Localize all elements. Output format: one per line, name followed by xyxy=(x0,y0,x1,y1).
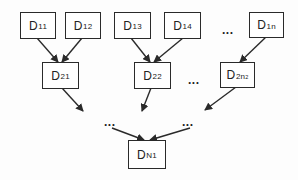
diagram-canvas: D11 D12 D13 D14 ... D1n D21 D22 ... D2n2… xyxy=(0,0,298,180)
node-d12: D12 xyxy=(65,12,101,39)
node-d2n2: D2n2 xyxy=(220,62,255,88)
ellipsis-level2: ... xyxy=(188,75,200,85)
edge-d21-level3 xyxy=(62,88,83,111)
node-d14: D14 xyxy=(164,12,201,39)
edge-d22-level3 xyxy=(142,88,151,111)
ellipsis-level1: ... xyxy=(222,25,234,35)
edge-dots-left-dn1 xyxy=(112,128,144,140)
ellipsis-level3-left: ... xyxy=(104,117,116,127)
node-d22: D22 xyxy=(134,62,171,89)
edge-dots-right-dn1 xyxy=(150,128,190,140)
node-d21: D21 xyxy=(42,62,79,89)
edge-d11-d21 xyxy=(37,38,58,62)
node-d11: D11 xyxy=(20,12,56,39)
edge-d13-d22 xyxy=(131,38,150,62)
edge-d1n-d2n2 xyxy=(240,37,266,62)
edge-d12-d21 xyxy=(62,38,82,62)
ellipsis-level3-right: ... xyxy=(182,117,194,127)
edge-d14-d22 xyxy=(154,38,183,62)
node-d13: D13 xyxy=(114,12,151,39)
edge-d2n2-level3 xyxy=(205,87,236,110)
node-dn1: DN1 xyxy=(128,140,166,169)
node-d1n: D1n xyxy=(249,12,284,38)
